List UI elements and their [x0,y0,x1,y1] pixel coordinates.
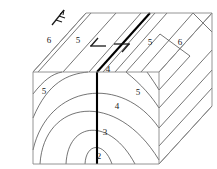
unit-label-front-1: 4 [115,101,120,111]
unit-label-top-3: 5 [148,37,153,47]
geologic-block-diagram: 6 5 4 5 6 5 4 3 2 5 [0,0,217,169]
unit-label-top-0: 6 [47,35,52,45]
unit-label-front-3: 2 [97,151,102,161]
unit-label-front-0: 5 [42,86,47,96]
block-faces [33,12,212,164]
unit-label-front-4: 5 [136,87,141,97]
strike-and-dip-symbol [52,10,65,25]
unit-label-top-4: 6 [178,37,183,47]
strike-dip-dip-tick-2 [59,16,65,18]
unit-label-top-2: 4 [106,64,111,74]
strike-dip-dip-tick-1 [56,20,62,22]
unit-label-top-1: 5 [76,35,81,45]
unit-label-front-2: 3 [103,127,108,137]
